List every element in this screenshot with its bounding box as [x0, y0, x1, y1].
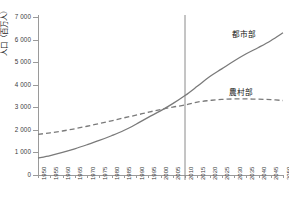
series-label-rural: 農村部	[229, 86, 253, 97]
series-line-rural	[38, 99, 283, 134]
population-line-chart: 人口（百万人） 01 0002 0003 0004 0005 0006 0007…	[0, 0, 289, 206]
series-label-urban: 都市部	[232, 28, 256, 39]
